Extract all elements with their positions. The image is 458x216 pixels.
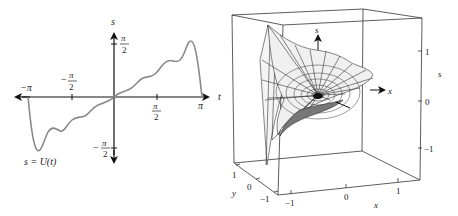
figure: t s −π π − π 2 π 2 π 2 (0, 0, 458, 216)
label-pi: π (198, 100, 204, 111)
right-s-label: s (438, 69, 442, 79)
curve-label: s = U(t) (24, 156, 57, 168)
right-tick-neg1: −1 (424, 144, 434, 154)
svg-text:2: 2 (122, 45, 127, 55)
y-tick-neg1: −1 (260, 194, 270, 204)
svg-text:π: π (153, 101, 158, 111)
label-half-pi-t: π 2 (152, 101, 161, 122)
svg-text:−: − (93, 142, 99, 153)
s-axis-label: s (111, 16, 115, 27)
curve-u-of-t (28, 41, 202, 151)
t-axis-label: t (218, 91, 221, 102)
inner-y-axis (336, 102, 350, 108)
right-tick-1: 1 (425, 47, 430, 57)
x-tick-neg1: −1 (285, 198, 295, 208)
label-neg-half-pi-s: − π 2 (93, 138, 110, 159)
svg-text:π: π (69, 70, 74, 80)
label-neg-half-pi-t: − π 2 (61, 70, 77, 92)
inner-x-label: x (387, 86, 392, 96)
svg-text:−: − (61, 74, 67, 85)
x-tick-0: 0 (344, 192, 349, 202)
svg-text:π: π (121, 33, 126, 43)
y-tick-1: 1 (232, 170, 237, 180)
bounding-box (232, 9, 422, 195)
left-plot: t s −π π − π 2 π 2 π 2 (16, 16, 221, 168)
label-neg-pi: −π (20, 82, 33, 93)
wireframe-surface (260, 25, 373, 165)
right-tick-0: 0 (425, 97, 430, 107)
svg-text:π: π (102, 138, 107, 148)
x-tick-1: 1 (396, 186, 401, 196)
y-tick-0: 0 (247, 182, 252, 192)
x-bottom-label: x (373, 200, 378, 210)
y-label: y (231, 188, 236, 198)
inner-s-label: s (315, 25, 319, 35)
label-half-pi-s: π 2 (120, 33, 129, 55)
right-plot (232, 9, 422, 195)
svg-text:2: 2 (69, 82, 74, 92)
svg-text:2: 2 (103, 149, 108, 159)
svg-text:2: 2 (154, 112, 159, 122)
